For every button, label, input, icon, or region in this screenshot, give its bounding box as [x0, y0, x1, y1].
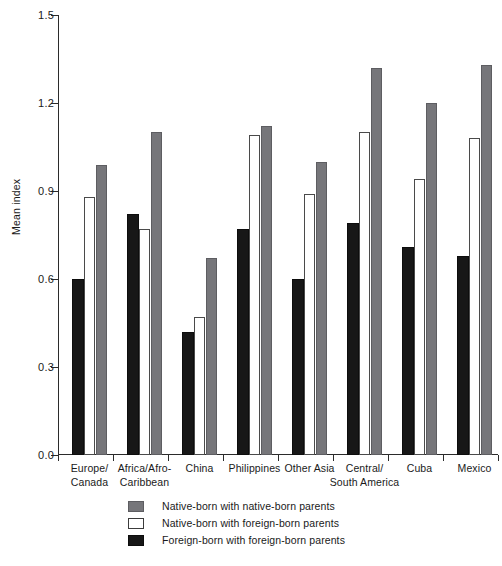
- legend-item[interactable]: Native-born with foreign-born parents: [128, 517, 345, 529]
- x-tick-mark: [443, 455, 444, 461]
- bar-white: [139, 229, 150, 455]
- bar-gray: [206, 258, 217, 455]
- legend-swatch-black: [128, 535, 144, 546]
- legend-swatch-white: [128, 518, 144, 529]
- bar-group: [402, 15, 437, 455]
- bar-black: [72, 279, 84, 455]
- bar-white: [359, 132, 370, 455]
- legend-swatch-gray: [128, 501, 144, 512]
- y-tick-label: 0.0: [38, 449, 54, 461]
- x-tick-mark: [58, 455, 59, 461]
- bar-group: [72, 15, 107, 455]
- bar-black: [347, 223, 359, 455]
- x-tick-mark: [113, 455, 114, 461]
- bar-gray: [426, 103, 437, 455]
- bar-white: [414, 179, 425, 455]
- x-tick-mark: [278, 455, 279, 461]
- bar-white: [249, 135, 260, 455]
- y-tick-label: 1.2: [38, 97, 54, 109]
- x-tick-mark: [168, 455, 169, 461]
- bar-group: [457, 15, 492, 455]
- bar-black: [292, 279, 304, 455]
- x-tick-mark: [333, 455, 334, 461]
- x-axis-label: Mexico: [430, 462, 502, 476]
- bar-group: [292, 15, 327, 455]
- bar-gray: [316, 162, 327, 455]
- bar-white: [469, 138, 480, 455]
- bar-gray: [151, 132, 162, 455]
- bar-gray: [481, 65, 492, 455]
- legend-item[interactable]: Native-born with native-born parents: [128, 500, 345, 512]
- bar-gray: [371, 68, 382, 455]
- y-axis-title: Mean index: [10, 179, 22, 235]
- plot-area: 0.00.30.60.91.21.5: [58, 15, 498, 455]
- legend-label: Native-born with foreign-born parents: [162, 517, 339, 529]
- bar-group: [237, 15, 272, 455]
- y-tick-label: 0.3: [38, 361, 54, 373]
- legend-label: Native-born with native-born parents: [162, 500, 335, 512]
- bar-group: [182, 15, 217, 455]
- bar-white: [84, 197, 95, 455]
- x-tick-mark: [388, 455, 389, 461]
- x-tick-mark: [223, 455, 224, 461]
- bar-black: [127, 214, 139, 455]
- y-tick-label: 0.9: [38, 185, 54, 197]
- bar-white: [194, 317, 205, 455]
- bar-white: [304, 194, 315, 455]
- legend-item[interactable]: Foreign-born with foreign-born parents: [128, 534, 345, 546]
- bar-black: [457, 256, 469, 455]
- bar-black: [402, 247, 414, 455]
- bar-gray: [261, 126, 272, 455]
- legend-label: Foreign-born with foreign-born parents: [162, 534, 345, 546]
- bar-group: [347, 15, 382, 455]
- x-tick-mark: [498, 455, 499, 461]
- y-tick-label: 0.6: [38, 273, 54, 285]
- bar-group: [127, 15, 162, 455]
- bar-black: [182, 332, 194, 455]
- y-axis-line: [58, 15, 59, 455]
- bar-gray: [96, 165, 107, 455]
- chart-figure: Mean index 0.00.30.60.91.21.5 Europe/ Ca…: [0, 0, 502, 566]
- y-tick-label: 1.5: [38, 9, 54, 21]
- chart-legend: Native-born with native-born parentsNati…: [128, 500, 345, 546]
- bar-black: [237, 229, 249, 455]
